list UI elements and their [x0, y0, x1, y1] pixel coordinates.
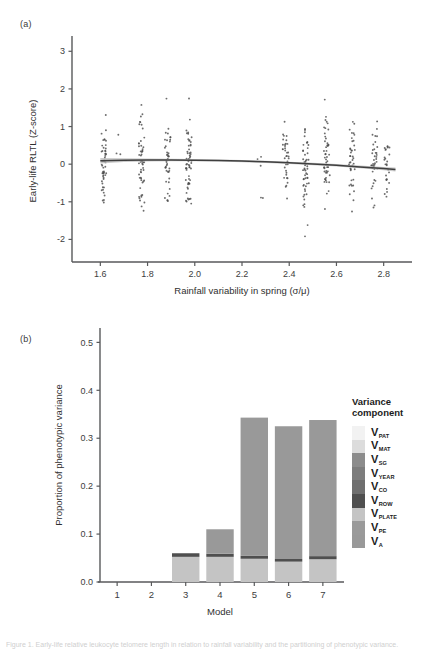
legend-label: VYEAR: [371, 468, 394, 480]
legend-item[interactable]: VPLATE: [352, 508, 428, 522]
scatter-point: [165, 132, 167, 134]
scatter-point: [325, 158, 327, 160]
scatter-point: [326, 181, 328, 183]
scatter-point: [262, 197, 264, 199]
scatter-point: [143, 161, 145, 163]
scatter-point: [326, 193, 328, 195]
scatter-point: [349, 148, 351, 150]
figure-caption: Figure 1. Early-life relative leukocyte …: [6, 641, 422, 650]
scatter-point: [185, 179, 187, 181]
legend-item[interactable]: VA: [352, 535, 428, 549]
scatter-point: [140, 140, 142, 142]
scatter-point: [376, 128, 378, 130]
legend-item[interactable]: VYEAR: [352, 467, 428, 481]
scatter-point: [324, 208, 326, 210]
scatter-point: [304, 203, 306, 205]
y-tick-label: 0.3: [80, 433, 93, 443]
scatter-point: [307, 177, 309, 179]
scatter-point: [325, 146, 327, 148]
scatter-point: [165, 181, 167, 183]
scatter-point: [327, 129, 329, 131]
x-tick-label: 1: [114, 589, 119, 600]
scatter-point: [372, 185, 374, 187]
legend-item[interactable]: VSG: [352, 453, 428, 467]
scatter-point: [102, 167, 104, 169]
scatter-point: [324, 157, 326, 159]
y-tick-label: -2: [57, 234, 65, 244]
bar-segment: [206, 529, 233, 553]
scatter-point: [104, 174, 106, 176]
scatter-point: [143, 169, 145, 171]
scatter-point: [286, 135, 288, 137]
scatter-point: [189, 166, 191, 168]
legend-swatch-pe: [352, 521, 365, 535]
scatter-point: [388, 171, 390, 173]
scatter-point: [166, 98, 168, 100]
scatter-point: [349, 155, 351, 157]
scatter-point: [375, 152, 377, 154]
x-axis-title: Rainfall variability in spring (σ/μ): [174, 285, 309, 296]
scatter-point: [375, 156, 377, 158]
scatter-point: [102, 189, 104, 191]
scatter-point: [304, 129, 306, 131]
scatter-point: [169, 136, 171, 138]
scatter-point: [164, 139, 166, 141]
scatter-point: [376, 154, 378, 156]
scatter-point: [324, 140, 326, 142]
scatter-point: [260, 197, 262, 199]
scatter-point: [304, 135, 306, 137]
scatter-point: [353, 134, 355, 136]
scatter-point: [350, 152, 352, 154]
legend-item[interactable]: VPAT: [352, 426, 428, 440]
scatter-point: [142, 146, 144, 148]
scatter-point: [349, 193, 351, 195]
scatter-point: [105, 150, 107, 152]
scatter-point: [374, 141, 376, 143]
scatter-point: [388, 182, 390, 184]
scatter-point: [101, 180, 103, 182]
scatter-point: [189, 157, 191, 159]
scatter-point: [329, 174, 331, 176]
scatter-point: [303, 196, 305, 198]
scatter-point: [186, 151, 188, 153]
scatter-point: [376, 120, 378, 122]
scatter-point: [325, 172, 327, 174]
scatter-point: [140, 178, 142, 180]
bar-segment: [172, 553, 199, 557]
legend-item[interactable]: VCO: [352, 480, 428, 494]
legend-swatch-year: [352, 467, 365, 481]
scatter-point: [188, 148, 190, 150]
scatter-point: [284, 150, 286, 152]
bar-segment: [309, 556, 336, 559]
scatter-point: [140, 116, 142, 118]
scatter-point: [308, 182, 310, 184]
scatter-point: [260, 165, 262, 167]
scatter-point: [285, 185, 287, 187]
scatter-point: [138, 143, 140, 145]
legend-swatch-pat: [352, 426, 365, 440]
scatter-point: [190, 198, 192, 200]
scatter-point: [186, 163, 188, 165]
scatter-point: [325, 119, 327, 121]
scatter-point: [323, 150, 325, 152]
scatter-point: [185, 167, 187, 169]
scatter-point: [351, 179, 353, 181]
legend-item[interactable]: VROW: [352, 494, 428, 508]
legend-item[interactable]: VPE: [352, 521, 428, 535]
legend-label: VA: [371, 536, 382, 548]
scatter-point: [374, 162, 376, 164]
scatter-point: [139, 187, 141, 189]
legend-label: VPE: [371, 522, 386, 534]
scatter-point: [140, 179, 142, 181]
x-tick-label: 2: [149, 589, 154, 600]
scatter-point: [105, 148, 107, 150]
scatter-point: [373, 159, 375, 161]
scatter-point: [188, 145, 190, 147]
scatter-point: [168, 181, 170, 183]
scatter-point: [166, 154, 168, 156]
bar-segment: [275, 426, 302, 559]
scatter-point: [304, 154, 306, 156]
scatter-point: [282, 144, 284, 146]
legend-item[interactable]: VMAT: [352, 440, 428, 454]
scatter-point: [188, 164, 190, 166]
